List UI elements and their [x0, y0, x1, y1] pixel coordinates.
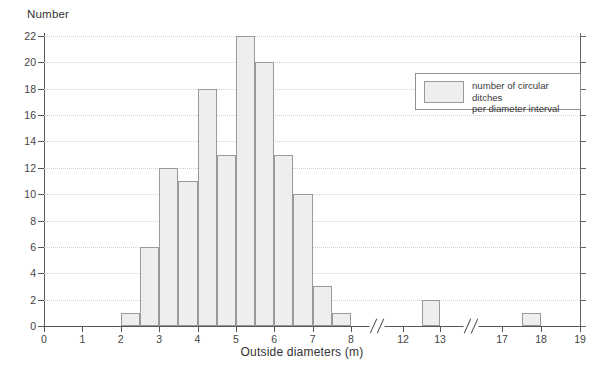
y-axis-tick — [38, 89, 44, 90]
y-axis-tick-label: 8 — [10, 215, 36, 227]
histogram-bar — [217, 155, 236, 326]
legend: number of circular ditches per diameter … — [415, 73, 581, 110]
y-axis-tick-right — [580, 141, 586, 142]
x-axis-tick — [198, 326, 199, 332]
x-axis-tick — [351, 326, 352, 332]
y-axis-tick-right — [580, 247, 586, 248]
histogram-bar — [255, 62, 274, 326]
axis-break-mark — [366, 318, 388, 334]
x-axis-tick-label: 13 — [429, 333, 451, 345]
histogram-bar — [313, 286, 332, 326]
y-axis-tick-right — [580, 300, 586, 301]
histogram-bar — [332, 313, 351, 326]
y-axis-tick-label: 18 — [10, 83, 36, 95]
x-axis-tick — [236, 326, 237, 332]
x-axis-tick-label: 18 — [530, 333, 552, 345]
gridline — [44, 141, 580, 142]
x-axis-tick-label: 5 — [225, 333, 247, 345]
histogram-bar — [140, 247, 159, 326]
x-axis-tick-label: 4 — [187, 333, 209, 345]
y-axis-tick — [38, 194, 44, 195]
y-axis-tick-right — [580, 194, 586, 195]
y-axis-tick-label: 6 — [10, 241, 36, 253]
y-axis-tick — [38, 168, 44, 169]
histogram-bar — [422, 300, 441, 326]
histogram-bar — [178, 181, 197, 326]
histogram-bar — [274, 155, 293, 326]
y-axis-tick — [38, 141, 44, 142]
x-axis-title: Outside diameters (m) — [0, 345, 604, 359]
x-axis-tick-label: 0 — [33, 333, 55, 345]
histogram-bar — [198, 89, 217, 326]
legend-label: number of circular ditches per diameter … — [472, 80, 580, 115]
y-axis-tick — [38, 221, 44, 222]
y-axis-tick-label: 0 — [10, 320, 36, 332]
y-axis-tick-right — [580, 115, 586, 116]
x-axis-tick — [541, 326, 542, 332]
y-axis-tick-label: 22 — [10, 30, 36, 42]
x-axis-tick-label: 17 — [491, 333, 513, 345]
y-axis-tick-right — [580, 36, 586, 37]
histogram-bar — [293, 194, 312, 326]
gridline — [44, 115, 580, 116]
x-axis-tick-label: 8 — [340, 333, 362, 345]
legend-swatch — [424, 81, 464, 103]
x-axis-tick — [403, 326, 404, 332]
y-axis-tick-right — [580, 168, 586, 169]
histogram-bar — [522, 313, 542, 326]
y-axis-tick-label: 14 — [10, 135, 36, 147]
histogram-bar — [236, 36, 255, 326]
y-axis-title: Number — [27, 8, 69, 20]
y-axis-tick-right — [580, 273, 586, 274]
y-axis-tick-label: 2 — [10, 294, 36, 306]
y-axis-tick — [38, 115, 44, 116]
x-axis-tick — [121, 326, 122, 332]
x-axis-tick-label: 19 — [569, 333, 591, 345]
x-axis-tick — [274, 326, 275, 332]
y-axis-tick-label: 16 — [10, 109, 36, 121]
histogram-bar — [121, 313, 140, 326]
x-axis-tick-label: 2 — [110, 333, 132, 345]
x-axis-tick-label: 6 — [263, 333, 285, 345]
x-axis-tick — [159, 326, 160, 332]
x-axis-tick — [440, 326, 441, 332]
x-axis-tick — [82, 326, 83, 332]
x-axis-tick — [502, 326, 503, 332]
y-axis-tick — [38, 273, 44, 274]
y-axis-tick — [38, 247, 44, 248]
y-axis-tick — [38, 300, 44, 301]
histogram-chart: Number 0246810121416182022 0123456781213… — [0, 0, 604, 372]
y-axis-tick-right — [580, 62, 586, 63]
x-axis-tick-label: 12 — [392, 333, 414, 345]
y-axis-tick — [38, 62, 44, 63]
y-axis-tick-label: 10 — [10, 188, 36, 200]
y-axis-tick-label: 20 — [10, 56, 36, 68]
x-axis-tick-label: 1 — [71, 333, 93, 345]
x-axis-tick — [44, 326, 45, 332]
histogram-bar — [159, 168, 178, 326]
x-axis-tick — [580, 326, 581, 332]
x-axis-tick-label: 3 — [148, 333, 170, 345]
y-axis-tick-label: 4 — [10, 267, 36, 279]
gridline — [44, 168, 580, 169]
y-axis-tick — [38, 36, 44, 37]
x-axis-tick-label: 7 — [302, 333, 324, 345]
x-axis-tick — [313, 326, 314, 332]
gridline — [44, 36, 580, 37]
y-axis-tick-label: 12 — [10, 162, 36, 174]
axis-break-mark — [460, 318, 482, 334]
y-axis-tick-right — [580, 221, 586, 222]
gridline — [44, 62, 580, 63]
